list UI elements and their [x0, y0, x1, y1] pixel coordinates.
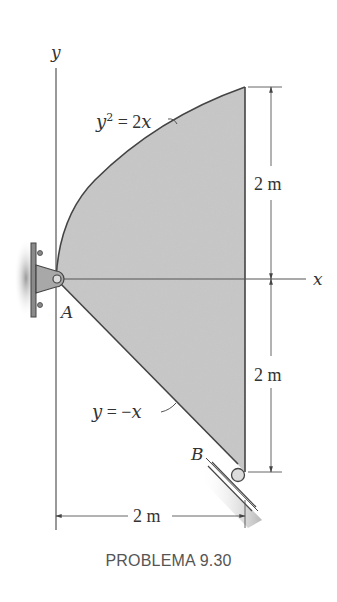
- svg-text:y2 = 2x: y2 = 2x: [95, 111, 151, 132]
- point-A-label: A: [59, 302, 73, 322]
- lower-curve-label: y = −x: [91, 401, 176, 422]
- y-axis-label: y: [50, 42, 61, 62]
- point-B-label: B: [190, 444, 204, 464]
- diagram-canvas: y x A B y2 = 2x y = −x 2 m 2: [0, 0, 337, 602]
- svg-text:y = −x: y = −x: [91, 401, 142, 422]
- width-label: 2 m: [133, 506, 161, 526]
- figure-caption: PROBLEMA 9.30: [0, 552, 337, 570]
- lower-height-label: 2 m: [254, 365, 282, 385]
- upper-height-label: 2 m: [254, 174, 282, 194]
- x-axis-label: x: [313, 269, 323, 289]
- roller-support-B: [200, 458, 262, 528]
